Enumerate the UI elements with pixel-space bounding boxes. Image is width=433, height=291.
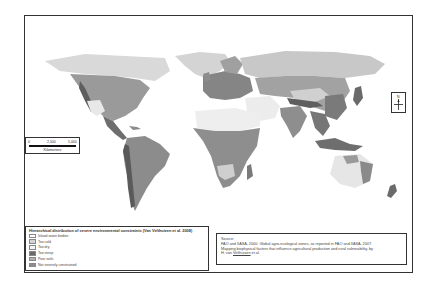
north-america — [70, 74, 150, 121]
east-china — [325, 94, 347, 120]
compass-icon: N — [392, 93, 405, 112]
caribbean — [129, 126, 141, 130]
legend-swatch — [29, 263, 36, 268]
scale-line — [29, 145, 76, 147]
legend-swatch — [29, 239, 36, 244]
source-line-3: H. van Velthuizen et al. — [221, 251, 402, 256]
legend-label: Too cold — [38, 240, 51, 244]
europe — [203, 71, 253, 100]
source-box: Source: FAO and IIASA, 2000. Global agro… — [216, 233, 407, 265]
scale-ticks: 0 2,500 5,000 — [28, 140, 77, 144]
scale-bar: 0 2,500 5,000 Kilometers — [25, 137, 80, 154]
india — [280, 106, 307, 138]
source-author-link[interactable]: Velthuizen — [233, 251, 251, 255]
indonesia — [315, 138, 363, 151]
north-label: N — [397, 95, 400, 99]
legend-item-not-constrained: Not severely constrained — [29, 262, 205, 268]
japan — [353, 86, 363, 106]
siberia — [240, 51, 385, 78]
scale-unit: Kilometers — [26, 148, 79, 152]
legend-swatch — [29, 234, 36, 239]
legend-label: Inland water bodies — [38, 234, 68, 238]
map-legend: Hierarchical distribution of severe envi… — [25, 226, 209, 271]
madagascar — [247, 164, 253, 180]
legend-label: Poor soils — [38, 257, 53, 261]
scale-tick-2: 5,000 — [68, 140, 77, 144]
new-zealand — [387, 184, 397, 198]
source-prefix: H. van — [221, 251, 233, 255]
north-arrow: N — [391, 92, 406, 113]
legend-label: Too dry — [38, 245, 49, 249]
legend-title: Hierarchical distribution of severe envi… — [29, 228, 205, 233]
world-map[interactable] — [25, 16, 412, 226]
legend-swatch — [29, 257, 36, 262]
legend-swatch — [29, 245, 36, 250]
source-suffix: et al. — [251, 251, 260, 255]
scale-tick-0: 0 — [28, 140, 30, 144]
scale-tick-1: 2,500 — [47, 140, 56, 144]
legend-label: Not severely constrained — [38, 263, 77, 267]
legend-label: Too steep — [38, 251, 53, 255]
legend-swatch — [29, 251, 36, 256]
